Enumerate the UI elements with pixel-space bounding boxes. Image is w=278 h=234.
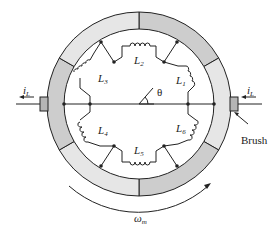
angle-indicator — [139, 88, 154, 104]
current-label-left: iL — [23, 84, 30, 98]
brush-label: Brush — [241, 134, 268, 146]
inductor-label-l1: L1 — [175, 74, 186, 88]
inductor-l4 — [78, 104, 114, 146]
inductor-label-l6: L6 — [175, 122, 186, 136]
inductor-label-l4: L4 — [97, 124, 108, 138]
speed-label: ωm — [134, 212, 147, 226]
inductor-label-l5: L5 — [133, 144, 144, 158]
angle-label: θ — [157, 86, 162, 98]
commutator-diagram: iL iL Brush L2 L5 — [0, 0, 278, 234]
inductor-label-l2: L2 — [133, 54, 144, 68]
brush-pointer — [236, 114, 248, 124]
current-label-right: iL — [247, 84, 254, 98]
brush-left — [40, 97, 48, 111]
brush-right — [230, 97, 238, 111]
inductor-label-l3: L3 — [97, 72, 108, 86]
segment-top-left — [59, 12, 139, 67]
segment-top-right — [139, 12, 219, 67]
